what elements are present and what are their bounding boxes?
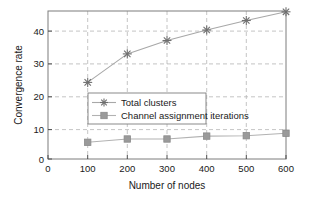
xtick-label-600: 600: [278, 163, 294, 174]
ytick-label-30: 30: [33, 58, 44, 69]
xtick-label-500: 500: [238, 163, 254, 174]
ytick-label-40: 40: [33, 26, 44, 37]
star-marker: [83, 78, 92, 87]
star-marker: [202, 26, 211, 35]
square-marker: [243, 133, 249, 139]
square-marker: [85, 139, 91, 145]
square-marker: [124, 136, 130, 142]
xtick-label-200: 200: [119, 163, 135, 174]
legend-label-total-clusters: Total clusters: [121, 97, 177, 108]
square-marker: [283, 130, 289, 136]
convergence-rate-chart: Total clusters Channel assignment iterat…: [0, 0, 310, 202]
legend-label-channel-assignment: Channel assignment iterations: [121, 110, 249, 121]
xtick-label-300: 300: [159, 163, 175, 174]
star-marker: [163, 36, 172, 45]
star-marker: [282, 7, 291, 16]
star-marker: [242, 16, 251, 25]
x-axis-title: Number of nodes: [129, 180, 206, 191]
xtick-label-400: 400: [199, 163, 215, 174]
y-tick-labels: 0 10 20 30 40: [33, 26, 44, 165]
ytick-label-20: 20: [33, 91, 44, 102]
ytick-label-10: 10: [33, 124, 44, 135]
square-marker: [204, 133, 210, 139]
xtick-label-100: 100: [80, 163, 96, 174]
star-marker: [100, 99, 108, 107]
square-marker: [101, 112, 107, 118]
y-axis-title: Convergence rate: [13, 45, 24, 125]
square-marker: [164, 136, 170, 142]
xtick-label-0: 0: [45, 163, 50, 174]
ytick-label-0: 0: [39, 154, 44, 165]
star-marker: [123, 49, 132, 58]
x-tick-labels: 0 100 200 300 400 500 600: [45, 163, 294, 174]
chart-figure: Total clusters Channel assignment iterat…: [0, 0, 310, 202]
